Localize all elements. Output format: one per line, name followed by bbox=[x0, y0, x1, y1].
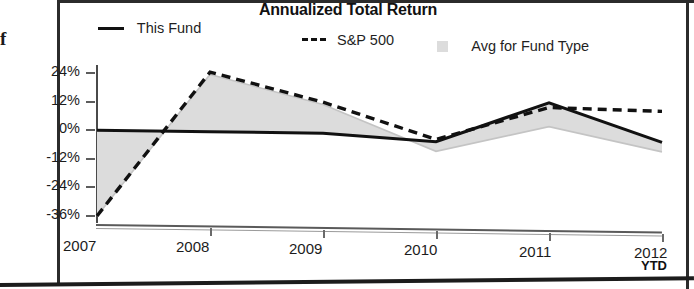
avg-fund-type-line bbox=[97, 75, 662, 217]
plot-area bbox=[0, 0, 694, 289]
sp500-line bbox=[97, 72, 662, 216]
avg-fund-type-area bbox=[97, 75, 662, 217]
chart-figure: f Annualized Total Return This Fund S&P … bbox=[0, 0, 694, 289]
